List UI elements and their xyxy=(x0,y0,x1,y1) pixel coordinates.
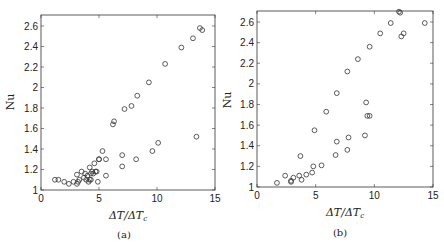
data-point xyxy=(422,21,427,26)
data-point xyxy=(367,44,372,49)
data-point xyxy=(324,109,329,114)
plot-frame-a xyxy=(41,15,215,190)
y-tick-label: 2.4 xyxy=(240,37,254,48)
data-points-b xyxy=(275,9,428,185)
x-tick-label: 10 xyxy=(369,190,381,201)
data-point xyxy=(92,161,97,166)
x-axis-a: 051015 xyxy=(38,15,221,204)
data-point xyxy=(156,140,161,145)
data-point xyxy=(95,179,100,184)
data-point xyxy=(62,179,67,184)
data-point xyxy=(75,172,80,177)
data-point xyxy=(163,62,168,67)
y-tick-label: 1.8 xyxy=(24,103,38,114)
data-point xyxy=(179,45,184,50)
data-point xyxy=(191,36,196,41)
y-tick-label: 2 xyxy=(32,82,38,93)
y-axis-label-a: Nu xyxy=(4,94,17,111)
data-point xyxy=(56,177,61,182)
y-tick-label: 2.2 xyxy=(240,58,254,69)
chart-panel-b: 11.21.41.61.822.22.42.6 051015 Nu ΔT/ΔTc… xyxy=(221,9,439,238)
y-tick-label: 1.4 xyxy=(24,144,38,155)
data-point xyxy=(120,153,125,158)
data-point xyxy=(97,157,102,162)
figure: 11.21.41.61.822.22.42.6 051015 Nu ΔT/ΔTc… xyxy=(0,0,444,244)
x-tick-label: 0 xyxy=(254,190,260,201)
data-point xyxy=(304,172,309,177)
x-axis-label-b: ΔT/ΔTc xyxy=(325,206,364,220)
y-axis-b: 11.21.41.61.822.22.42.6 xyxy=(240,17,433,193)
y-axis-a: 11.21.41.61.822.22.42.6 xyxy=(24,21,215,196)
data-point xyxy=(122,107,127,112)
data-point xyxy=(346,135,351,140)
y-tick-label: 2.2 xyxy=(24,62,38,73)
data-point xyxy=(364,100,369,105)
data-point xyxy=(120,164,125,169)
y-tick-label: 2.4 xyxy=(24,41,38,52)
caption-a: (a) xyxy=(117,229,131,240)
y-tick-label: 1.8 xyxy=(240,99,254,110)
data-point xyxy=(135,93,140,98)
y-tick-label: 1.6 xyxy=(24,123,38,134)
y-tick-label: 2 xyxy=(248,78,254,89)
data-point xyxy=(111,122,116,127)
data-points-a xyxy=(53,26,205,187)
data-point xyxy=(146,80,151,85)
y-tick-label: 2.6 xyxy=(24,21,38,32)
x-tick-label: 0 xyxy=(38,193,44,204)
data-point xyxy=(299,177,304,182)
data-point xyxy=(283,173,288,178)
y-tick-label: 1.6 xyxy=(240,120,254,131)
y-axis-label-b: Nu xyxy=(221,92,234,109)
x-tick-label: 15 xyxy=(427,190,439,201)
data-point xyxy=(319,163,324,168)
plot-frame-b xyxy=(257,11,433,187)
y-tick-label: 1.4 xyxy=(240,140,254,151)
data-point xyxy=(129,104,134,109)
data-point xyxy=(388,21,393,26)
data-point xyxy=(333,153,338,158)
caption-b: (b) xyxy=(333,227,347,238)
data-point xyxy=(275,180,280,185)
data-point xyxy=(134,157,139,162)
data-point xyxy=(334,139,339,144)
x-tick-label: 10 xyxy=(151,193,163,204)
data-point xyxy=(104,173,109,178)
data-point xyxy=(334,91,339,96)
x-tick-label: 5 xyxy=(96,193,102,204)
x-tick-label: 5 xyxy=(313,190,319,201)
data-point xyxy=(150,149,155,154)
data-point xyxy=(311,164,316,169)
data-point xyxy=(345,69,350,74)
y-tick-label: 2.6 xyxy=(240,17,254,28)
x-tick-label: 15 xyxy=(209,193,221,204)
data-point xyxy=(345,147,350,152)
data-point xyxy=(298,154,303,159)
data-point xyxy=(104,157,109,162)
data-point xyxy=(310,170,315,175)
data-point xyxy=(66,181,71,186)
data-point xyxy=(363,133,368,138)
x-axis-b: 051015 xyxy=(254,11,439,201)
chart-panel-a: 11.21.41.61.822.22.42.6 051015 Nu ΔT/ΔTc… xyxy=(4,15,221,240)
data-point xyxy=(378,31,383,36)
data-point xyxy=(194,134,199,139)
x-axis-label-a: ΔT/ΔTc xyxy=(108,209,147,223)
y-tick-label: 1.2 xyxy=(240,161,254,172)
data-point xyxy=(356,57,361,62)
y-tick-label: 1.2 xyxy=(24,164,38,175)
data-point xyxy=(100,149,105,154)
data-point xyxy=(312,128,317,133)
data-point xyxy=(112,119,117,124)
